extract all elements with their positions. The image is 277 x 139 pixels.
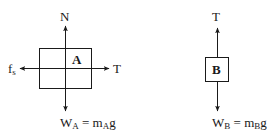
weight-a-equals: = m — [79, 115, 103, 130]
normal-force-label: N — [60, 10, 69, 23]
block-b-label: B — [212, 63, 221, 76]
tension-b-label: T — [212, 10, 220, 23]
weight-b-equation: WB = mBg — [212, 116, 267, 129]
weight-b-equals: = m — [230, 115, 254, 130]
normal-force-symbol: N — [60, 9, 69, 24]
block-a-label: A — [72, 53, 81, 66]
friction-force-subscript: s — [12, 67, 16, 77]
body-a-diagram — [20, 26, 109, 111]
weight-b-gravity: g — [260, 115, 267, 130]
weight-b-symbol: W — [212, 115, 224, 130]
weight-a-equation: WA = mAg — [60, 116, 116, 129]
tension-b-symbol: T — [212, 9, 220, 24]
weight-a-gravity: g — [109, 115, 116, 130]
tension-a-label: T — [113, 62, 121, 75]
weight-a-symbol: W — [60, 115, 72, 130]
friction-force-label: fs — [8, 62, 16, 75]
tension-a-symbol: T — [113, 61, 121, 76]
